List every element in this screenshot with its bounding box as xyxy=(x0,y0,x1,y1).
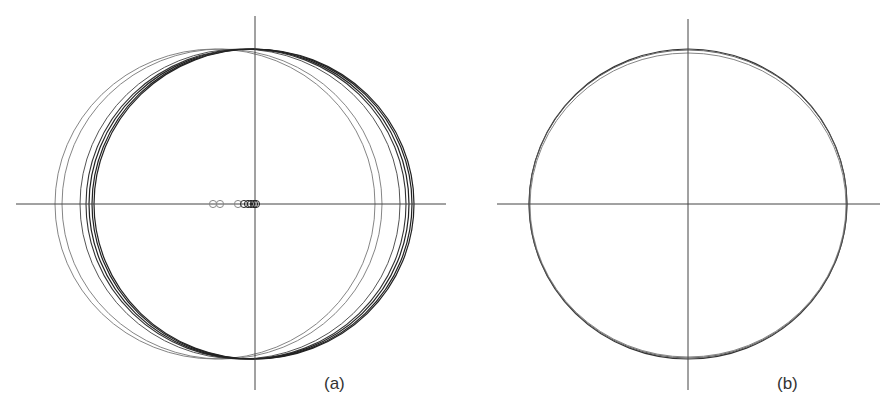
panel-b xyxy=(497,19,880,390)
figure-canvas xyxy=(0,0,891,406)
panel-label-a: (a) xyxy=(324,374,345,394)
panel-a xyxy=(16,16,446,390)
panel-label-b: (b) xyxy=(777,374,798,394)
